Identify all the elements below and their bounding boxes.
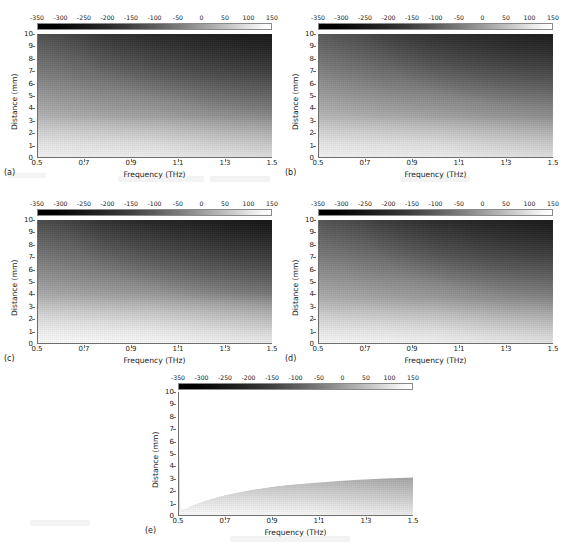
panel-label-b: (b) <box>285 168 296 177</box>
colorbar-tick: 100 <box>243 198 255 209</box>
colorbar-tick: -50 <box>173 198 183 209</box>
y-axis-title-e: Distance (mm) <box>151 432 160 488</box>
heatmap-field-d <box>319 220 553 343</box>
colorbar-gradient-d <box>318 209 553 216</box>
x-ticklabels-b: 0.5 0.7 0.9 1.1 1.3 1.5 <box>318 159 553 169</box>
y-ticklabels-d: 10 9 8 7 6 5 4 3 2 1 0 <box>299 220 316 344</box>
colorbar-tick: 150 <box>547 198 559 209</box>
x-tick: 0.5 <box>31 345 42 353</box>
colorbar-tick: -50 <box>173 12 183 23</box>
colorbar-tick: -350 <box>311 12 325 23</box>
colorbar-gradient-a <box>37 23 272 30</box>
colorbar-gradient-e <box>178 383 413 390</box>
heatmap-noise-texture <box>319 220 553 343</box>
colorbar-tick: -100 <box>428 198 442 209</box>
colorbar-c: -350 -300 -250 -200 -150 -100 -50 0 50 1… <box>37 198 272 216</box>
x-axis-title-b: Frequency (THz) <box>318 170 553 179</box>
colorbar-tick: 100 <box>384 372 396 383</box>
colorbar-tick: 50 <box>362 372 370 383</box>
y-ticklabels-b: 10 9 8 7 6 5 4 3 2 1 0 <box>299 34 316 158</box>
colorbar-tick: -150 <box>124 198 138 209</box>
colorbar-e: -350 -300 -250 -200 -150 -100 -50 0 50 1… <box>178 372 413 390</box>
x-tick: 0.5 <box>312 159 323 167</box>
y-axis-title-b: Distance (mm) <box>291 74 300 130</box>
heatmap-field-a <box>38 34 272 157</box>
colorbar-tick: 0 <box>481 198 485 209</box>
x-axis-title-a: Frequency (THz) <box>37 170 272 179</box>
colorbar-tick: -100 <box>147 12 161 23</box>
colorbar-tick: -200 <box>241 372 255 383</box>
colorbar-tick: -250 <box>77 198 91 209</box>
x-tick: 1.5 <box>407 517 418 525</box>
colorbar-a: -350 -300 -250 -200 -150 -100 -50 0 50 1… <box>37 12 272 30</box>
heatmap-noise-texture <box>38 34 272 157</box>
colorbar-tick: -150 <box>124 12 138 23</box>
colorbar-tick: -100 <box>428 12 442 23</box>
colorbar-tick: 50 <box>221 12 229 23</box>
colorbar-tick: -300 <box>194 372 208 383</box>
colorbar-tick: -250 <box>358 12 372 23</box>
x-tick: 0.5 <box>312 345 323 353</box>
plot-area-d <box>318 220 553 344</box>
panel-label-d: (d) <box>285 354 296 363</box>
x-tick: 1.5 <box>266 345 277 353</box>
colorbar-tick: -250 <box>358 198 372 209</box>
colorbar-tick: -100 <box>147 198 161 209</box>
colorbar-tick: -200 <box>381 12 395 23</box>
colorbar-b: -350 -300 -250 -200 -150 -100 -50 0 50 1… <box>318 12 553 30</box>
colorbar-ticklabels-d: -350 -300 -250 -200 -150 -100 -50 0 50 1… <box>318 198 553 209</box>
colorbar-tick: 150 <box>407 372 419 383</box>
colorbar-tick: -150 <box>405 12 419 23</box>
colorbar-tick: 0 <box>200 12 204 23</box>
plot-area-b <box>318 34 553 158</box>
x-ticklabels-a: 0.5 0.7 0.9 1.1 1.3 1.5 <box>37 159 272 169</box>
x-ticklabels-e: 0.5 0.7 0.9 1.1 1.3 1.5 <box>178 517 413 527</box>
colorbar-tick: -100 <box>288 372 302 383</box>
x-tick: 0.5 <box>172 517 183 525</box>
y-axis-title-d: Distance (mm) <box>291 260 300 316</box>
y-axis-title-a: Distance (mm) <box>10 74 19 130</box>
panel-b: -350 -300 -250 -200 -150 -100 -50 0 50 1… <box>281 0 563 190</box>
colorbar-tick: 50 <box>502 12 510 23</box>
panel-label-c: (c) <box>4 354 15 363</box>
panel-label-e: (e) <box>145 526 156 535</box>
x-ticklabels-c: 0.5 0.7 0.9 1.1 1.3 1.5 <box>37 345 272 355</box>
panel-label-a: (a) <box>4 168 15 177</box>
colorbar-tick: -300 <box>334 12 348 23</box>
colorbar-tick: -50 <box>314 372 324 383</box>
y-ticklabels-c: 10 9 8 7 6 5 4 3 2 1 0 <box>18 220 35 344</box>
colorbar-tick: -300 <box>334 198 348 209</box>
colorbar-tick: 100 <box>524 12 536 23</box>
colorbar-tick: -150 <box>405 198 419 209</box>
colorbar-tick: 0 <box>341 372 345 383</box>
plot-area-e <box>178 392 413 516</box>
colorbar-ticklabels-c: -350 -300 -250 -200 -150 -100 -50 0 50 1… <box>37 198 272 209</box>
colorbar-gradient-b <box>318 23 553 30</box>
x-axis-title-c: Frequency (THz) <box>37 356 272 365</box>
heatmap-field-c <box>38 220 272 343</box>
y-ticklabels-e: 10 9 8 7 6 5 4 3 2 1 0 <box>159 392 176 516</box>
colorbar-tick: 150 <box>266 198 278 209</box>
colorbar-tick: 0 <box>200 198 204 209</box>
colorbar-tick: -250 <box>77 12 91 23</box>
scan-artefact <box>30 520 90 526</box>
x-tick: 1.5 <box>547 345 558 353</box>
colorbar-tick: -250 <box>218 372 232 383</box>
colorbar-tick: 100 <box>243 12 255 23</box>
colorbar-tick: -200 <box>100 198 114 209</box>
panel-e: -350 -300 -250 -200 -150 -100 -50 0 50 1… <box>141 372 423 551</box>
colorbar-tick: 100 <box>524 198 536 209</box>
colorbar-ticklabels-a: -350 -300 -250 -200 -150 -100 -50 0 50 1… <box>37 12 272 23</box>
colorbar-ticklabels-b: -350 -300 -250 -200 -150 -100 -50 0 50 1… <box>318 12 553 23</box>
panel-a: -350 -300 -250 -200 -150 -100 -50 0 50 1… <box>0 0 281 190</box>
heatmap-noise-texture <box>319 34 553 157</box>
colorbar-tick: -200 <box>381 198 395 209</box>
x-tick: 1.5 <box>266 159 277 167</box>
colorbar-tick: 150 <box>266 12 278 23</box>
colorbar-tick: -150 <box>265 372 279 383</box>
colorbar-tick: -50 <box>454 198 464 209</box>
colorbar-d: -350 -300 -250 -200 -150 -100 -50 0 50 1… <box>318 198 553 216</box>
colorbar-tick: 50 <box>221 198 229 209</box>
heatmap-noise-texture <box>38 220 272 343</box>
plot-area-c <box>37 220 272 344</box>
